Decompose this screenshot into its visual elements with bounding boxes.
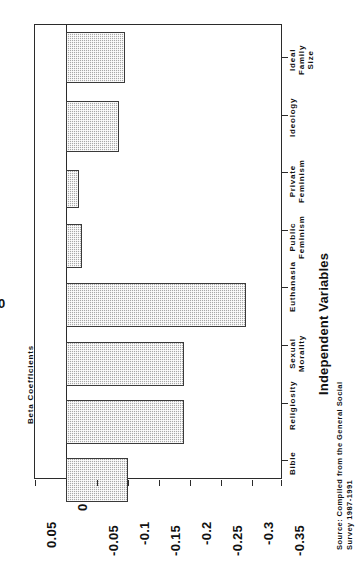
bar-public-feminism[interactable]	[66, 224, 82, 268]
axis-tick	[159, 480, 160, 486]
bar-private-feminism[interactable]	[66, 170, 79, 208]
y-axis-title: Beta Coefficients	[26, 345, 35, 424]
tick-label-7: -0.3	[261, 521, 276, 545]
category-label-religiosity: Religiosity	[288, 381, 297, 430]
axis-tick	[190, 480, 191, 486]
tick-label-1: 0	[75, 503, 90, 511]
category-label-bible: Bible	[288, 451, 297, 475]
bar-euthanasia[interactable]	[66, 283, 246, 327]
category-label-line: Ideal	[288, 45, 297, 75]
x-axis-title: Independent Variables	[316, 253, 331, 395]
category-label-line: Feminism	[297, 159, 306, 203]
category-label-line: Bible	[288, 451, 297, 475]
bar-ideology[interactable]	[66, 101, 119, 152]
axis-tick	[281, 480, 282, 486]
axis-tick	[252, 480, 253, 486]
tick-label-0: 0.05	[44, 521, 59, 548]
category-label-line: Religiosity	[288, 381, 297, 430]
category-label-line: Family	[297, 45, 306, 75]
source-line-2: Survey 1987-1991	[345, 382, 355, 550]
category-label-line: Ideology	[288, 98, 297, 137]
category-label-line: Size	[306, 45, 315, 75]
tick-label-2: -0.05	[106, 525, 121, 556]
category-label-euthanasia: Euthanasia	[288, 261, 297, 312]
source-note: Source: Compiled from the General Social…	[335, 382, 355, 550]
bar-sexual-morality[interactable]	[66, 342, 184, 386]
tick-label-8: -0.35	[292, 525, 307, 556]
axis-tick	[221, 480, 222, 486]
stray-digit-artifact: 0	[0, 296, 5, 311]
tick-label-4: -0.15	[168, 525, 183, 556]
axis-tick	[128, 480, 129, 486]
category-label-line: Morality	[297, 335, 306, 372]
axis-tick	[97, 480, 98, 486]
category-label-line: Feminism	[297, 215, 306, 259]
figure-container: 0.05 0 -0.05 -0.1 -0.15 -0.2 -0.25 -0.3 …	[0, 0, 357, 572]
category-label-public-feminism: Public Feminism	[288, 215, 306, 259]
category-label-ideology: Ideology	[288, 98, 297, 137]
category-label-line: Public	[288, 215, 297, 259]
tick-label-5: -0.2	[199, 521, 214, 545]
axis-tick	[35, 480, 36, 486]
source-line-1: Source: Compiled from the General Social	[335, 382, 345, 550]
tick-label-6: -0.25	[230, 525, 245, 556]
tick-label-3: -0.1	[137, 521, 152, 545]
category-label-line: Sexual	[288, 335, 297, 372]
bar-religiosity[interactable]	[66, 400, 184, 444]
axis-tick	[66, 480, 67, 486]
category-label-private-feminism: Private Feminism	[288, 159, 306, 203]
category-label-line: Euthanasia	[288, 261, 297, 312]
bar-ideal-family-size[interactable]	[66, 32, 125, 83]
category-label-sexual-morality: Sexual Morality	[288, 335, 306, 372]
category-label-line: Private	[288, 159, 297, 203]
category-label-ideal-family-size: Ideal Family Size	[288, 45, 315, 75]
